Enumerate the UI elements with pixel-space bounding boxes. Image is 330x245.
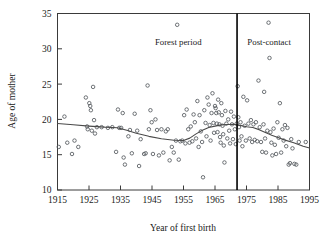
x-tick-label: 1995 [300,195,319,205]
x-tick-label: 1965 [206,195,225,205]
post-contact-label: Post-contact [247,37,291,47]
y-tick-label: 25 [42,80,52,90]
x-tick-label: 1915 [48,195,67,205]
x-tick-label: 1975 [237,195,256,205]
y-tick-label: 10 [42,185,52,195]
x-tick-label: 1985 [269,195,288,205]
x-tick-label: 1955 [174,195,193,205]
y-tick-label: 20 [42,115,52,125]
x-tick-label: 1945 [143,195,162,205]
y-axis-title: Age of mother [7,72,17,128]
y-tick-label: 35 [42,9,52,19]
x-axis-tick-labels: 191519251935194519551965197519851995 [48,195,319,205]
y-tick-label: 30 [42,44,52,54]
forest-period-label: Forest period [155,37,202,47]
chart-figure: 191519251935194519551965197519851995 101… [0,0,330,245]
x-axis-title: Year of first birth [150,223,216,233]
scatter-plot: 191519251935194519551965197519851995 101… [0,0,330,245]
x-tick-label: 1935 [111,195,130,205]
x-tick-label: 1925 [80,195,99,205]
y-tick-label: 15 [42,150,52,160]
